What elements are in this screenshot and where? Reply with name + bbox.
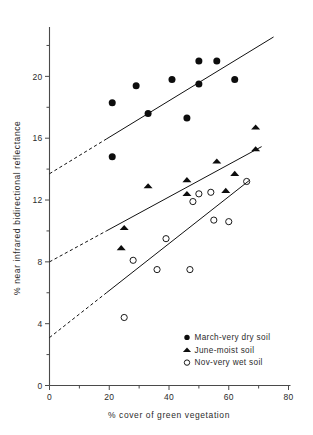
chart-figure: 048121620020406080 % cover of green vege… xyxy=(0,0,313,435)
x-tick-label: 40 xyxy=(164,392,174,402)
data-point-filled-circle xyxy=(109,99,116,106)
data-point-open-circle xyxy=(196,191,202,197)
data-point-filled-triangle xyxy=(251,124,260,129)
y-tick-label: 8 xyxy=(37,257,42,267)
y-tick-label: 4 xyxy=(37,319,42,329)
regression-line-solid xyxy=(106,37,273,139)
data-point-open-circle xyxy=(190,198,196,204)
data-point-open-circle xyxy=(163,236,169,242)
data-point-filled-circle xyxy=(213,57,220,64)
tick-labels: 048121620020406080 xyxy=(32,72,293,402)
data-point-filled-circle xyxy=(195,57,202,64)
scatter-plot: 048121620020406080 % cover of green vege… xyxy=(0,0,313,435)
y-tick-label: 20 xyxy=(32,72,42,82)
axis-titles: % cover of green vegetation% near infrar… xyxy=(12,121,230,420)
legend-label: March-very dry soil xyxy=(195,333,271,342)
data-point-open-circle xyxy=(211,217,217,223)
data-point-filled-triangle xyxy=(120,225,129,230)
data-point-filled-triangle xyxy=(230,171,239,176)
data-point-open-circle xyxy=(187,266,193,272)
regression-line-dashed xyxy=(50,293,107,338)
data-point-open-circle xyxy=(130,257,136,263)
data-point-filled-circle xyxy=(109,153,116,160)
data-point-open-circle xyxy=(244,178,250,184)
y-tick-label: 16 xyxy=(32,133,42,143)
data-point-filled-circle xyxy=(183,115,190,122)
data-point-filled-triangle xyxy=(117,245,126,250)
legend-marker-filled-triangle xyxy=(183,347,191,352)
legend: March-very dry soilJune-moist soilNov-ve… xyxy=(183,333,270,367)
x-tick-label: 0 xyxy=(47,392,52,402)
regression-lines xyxy=(50,37,274,338)
y-tick-label: 0 xyxy=(37,381,42,391)
data-point-filled-circle xyxy=(195,81,202,88)
legend-marker-open-circle xyxy=(184,360,189,365)
legend-label: Nov-very wet soil xyxy=(195,358,263,367)
data-point-filled-circle xyxy=(133,82,140,89)
regression-line-dashed xyxy=(50,231,107,262)
regression-line-dashed xyxy=(50,139,107,174)
data-point-filled-circle xyxy=(231,76,238,83)
x-axis-title: % cover of green vegetation xyxy=(108,410,230,420)
data-point-filled-triangle xyxy=(144,183,153,188)
data-point-open-circle xyxy=(154,266,160,272)
data-point-open-circle xyxy=(226,219,232,225)
x-tick-label: 80 xyxy=(283,392,293,402)
data-point-open-circle xyxy=(121,314,127,320)
y-tick-label: 12 xyxy=(32,195,42,205)
data-point-filled-triangle xyxy=(182,177,191,182)
data-point-filled-triangle xyxy=(221,188,230,193)
legend-label: June-moist soil xyxy=(195,346,255,355)
y-axis-title: % near infrared bidirectional reflectanc… xyxy=(12,121,22,295)
x-tick-label: 20 xyxy=(104,392,114,402)
legend-marker-filled-circle xyxy=(184,335,189,340)
data-point-open-circle xyxy=(208,189,214,195)
regression-line-solid xyxy=(106,180,249,293)
data-point-filled-triangle xyxy=(182,191,191,196)
data-point-filled-circle xyxy=(168,76,175,83)
data-point-filled-circle xyxy=(145,110,152,117)
data-point-filled-triangle xyxy=(212,158,221,163)
x-tick-label: 60 xyxy=(224,392,234,402)
